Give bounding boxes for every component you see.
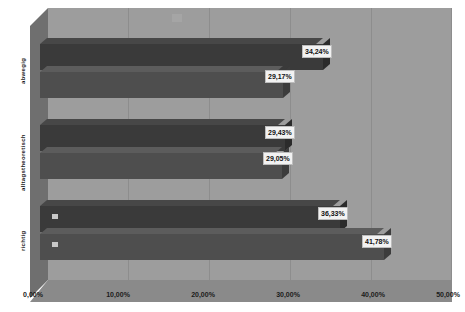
data-label-abwegig-series-2: 29,17% — [265, 70, 295, 83]
category-label-abwegig: abwegig — [20, 58, 26, 84]
bar-richtig-series-2[interactable] — [40, 228, 384, 254]
top-artifact — [172, 14, 182, 22]
bar-alltagstheoretisch-series-1[interactable] — [40, 119, 285, 145]
bar-chart: 34,24% 29,17% 29,43% 29,05% 36,33% — [0, 0, 465, 312]
data-label-alltagstheoretisch-series-2: 29,05% — [263, 152, 293, 165]
bar-alltagstheoretisch-series-2[interactable] — [40, 147, 282, 173]
bar-front-face — [40, 153, 282, 179]
bar-abwegig-series-2[interactable] — [40, 66, 283, 92]
series-swatch-marker — [52, 242, 58, 247]
category-label-richtig: richtig — [20, 231, 26, 251]
bar-front-face — [40, 72, 283, 98]
data-label-alltagstheoretisch-series-1: 29,43% — [265, 126, 295, 139]
x-tick-label-10: 10,00% — [106, 291, 130, 298]
series-swatch-marker — [52, 214, 58, 219]
bar-front-face — [40, 234, 384, 260]
data-label-richtig-series-1: 36,33% — [318, 207, 348, 220]
x-tick-label-20: 20,00% — [191, 291, 215, 298]
plot-area: 34,24% 29,17% 29,43% 29,05% 36,33% — [0, 0, 465, 312]
x-tick-label-0: 0,00% — [23, 291, 43, 298]
bar-abwegig-series-1[interactable] — [40, 38, 323, 64]
gridline-50 — [451, 8, 452, 280]
x-tick-label-30: 30,00% — [276, 291, 300, 298]
data-label-richtig-series-2: 41,78% — [362, 235, 392, 248]
x-tick-label-50: 50,00% — [436, 291, 460, 298]
x-tick-label-40: 40,00% — [361, 291, 385, 298]
bar-richtig-series-1[interactable] — [40, 200, 340, 226]
category-label-alltagstheoretisch: alltagstheoretisch — [20, 134, 26, 191]
data-label-abwegig-series-1: 34,24% — [302, 45, 332, 58]
